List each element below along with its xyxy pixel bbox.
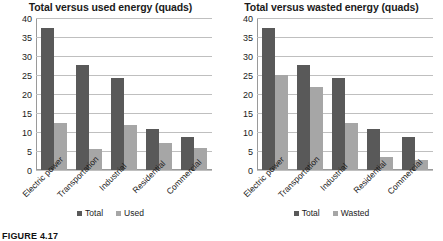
bar-group (106, 18, 141, 170)
y-axis-tick-label: 30 (243, 53, 253, 62)
y-axis-tick-label: 25 (22, 72, 32, 81)
y-axis-tick-label: 20 (22, 91, 32, 100)
y-axis-tick-label: 0 (248, 167, 253, 176)
bar-group (142, 18, 177, 170)
bar-group (327, 18, 362, 170)
legend-item[interactable]: Total (294, 208, 320, 218)
y-axis-tick-label: 15 (22, 110, 32, 119)
figure-container: Total versus used energy (quads) 0510152… (0, 0, 443, 241)
y-axis-tick-label: 20 (243, 91, 253, 100)
chart-legend: TotalUsed (0, 208, 221, 218)
bar-group (71, 18, 106, 170)
legend-swatch-icon (294, 211, 299, 216)
y-axis-tick-label: 10 (243, 129, 253, 138)
bar-group (257, 18, 292, 170)
y-axis-tick-label: 10 (22, 129, 32, 138)
bar-group (36, 18, 71, 170)
legend-swatch-icon (77, 211, 82, 216)
bar (76, 65, 89, 170)
bar-group (177, 18, 212, 170)
plot-area: 0510152025303540 (36, 18, 212, 170)
bar (332, 78, 345, 170)
y-axis-tick-label: 0 (27, 167, 32, 176)
legend-label: Total (302, 208, 320, 218)
bar-groups (36, 18, 212, 170)
legend-label: Total (85, 208, 103, 218)
bar (124, 125, 137, 170)
legend-label: Wasted (341, 208, 370, 218)
legend-swatch-icon (116, 211, 121, 216)
chart-panel-used: Total versus used energy (quads) 0510152… (0, 0, 221, 225)
bar (297, 65, 310, 170)
chart-title: Total versus used energy (quads) (0, 1, 221, 13)
plot-area: 0510152025303540 (257, 18, 433, 170)
y-axis-tick-label: 25 (243, 72, 253, 81)
y-axis-tick-label: 5 (27, 148, 32, 157)
figure-caption: FIGURE 4.17 (2, 231, 58, 241)
legend-item[interactable]: Total (77, 208, 103, 218)
legend-item[interactable]: Wasted (333, 208, 370, 218)
chart-legend: TotalWasted (221, 208, 442, 218)
chart-panel-wasted: Total versus wasted energy (quads) 05101… (221, 0, 442, 225)
y-axis-tick-label: 35 (22, 34, 32, 43)
legend-swatch-icon (333, 211, 338, 216)
y-axis-tick-label: 40 (243, 15, 253, 24)
y-axis-tick-label: 15 (243, 110, 253, 119)
y-axis-tick-label: 40 (22, 15, 32, 24)
bar-group (292, 18, 327, 170)
bar-group (363, 18, 398, 170)
bar (262, 28, 275, 170)
y-axis-tick-label: 5 (248, 148, 253, 157)
chart-title: Total versus wasted energy (quads) (221, 1, 442, 13)
legend-item[interactable]: Used (116, 208, 144, 218)
bar-groups (257, 18, 433, 170)
bar (111, 78, 124, 170)
y-axis-tick-label: 30 (22, 53, 32, 62)
legend-label: Used (124, 208, 144, 218)
y-axis-tick-label: 35 (243, 34, 253, 43)
bar (345, 123, 358, 170)
bar-group (398, 18, 433, 170)
bar (41, 28, 54, 170)
